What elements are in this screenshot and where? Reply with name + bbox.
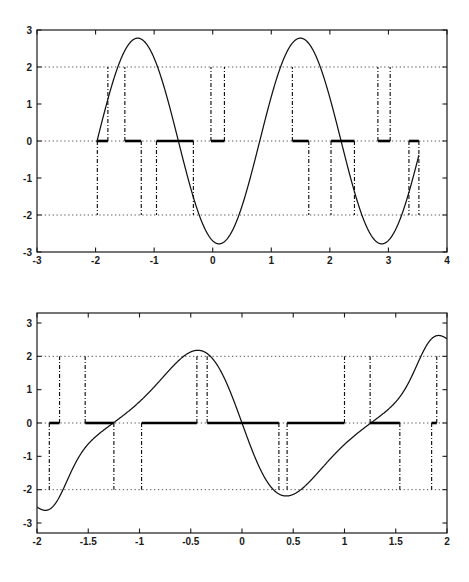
x-tick-label: -1 <box>150 255 159 266</box>
bottom-plot-figure: -2-1.5-1-0.500.511.52-3-2-10123 <box>0 290 469 582</box>
y-tick-label: 2 <box>26 351 32 362</box>
y-tick-label: 2 <box>26 62 32 73</box>
figure-page: -3-2-101234-3-2-10123 -2-1.5-1-0.500.511… <box>0 0 469 582</box>
x-tick-label: -2 <box>33 536 42 547</box>
x-tick-label: -3 <box>33 255 42 266</box>
top-plot-svg: -3-2-101234-3-2-10123 <box>0 0 469 290</box>
x-tick-label: -2 <box>91 255 100 266</box>
bottom-plot-group: -2-1.5-1-0.500.511.52-3-2-10123 <box>23 313 450 547</box>
x-tick-label: 1.5 <box>389 536 403 547</box>
top-plot-figure: -3-2-101234-3-2-10123 <box>0 0 469 290</box>
y-tick-label: -3 <box>23 518 32 529</box>
x-tick-label: 0.5 <box>286 536 300 547</box>
bottom-plot-svg: -2-1.5-1-0.500.511.52-3-2-10123 <box>0 290 469 582</box>
x-tick-label: 2 <box>444 536 450 547</box>
y-tick-label: 1 <box>26 99 32 110</box>
y-tick-label: -1 <box>23 451 32 462</box>
x-tick-label: 1 <box>269 255 275 266</box>
x-tick-label: -1.5 <box>80 536 98 547</box>
x-tick-label: -1 <box>135 536 144 547</box>
y-tick-label: 0 <box>26 136 32 147</box>
signal-curve <box>97 38 419 244</box>
y-tick-label: -3 <box>23 247 32 258</box>
x-tick-label: -0.5 <box>182 536 200 547</box>
x-tick-label: 0 <box>210 255 216 266</box>
y-tick-label: 3 <box>26 318 32 329</box>
y-tick-label: -2 <box>23 210 32 221</box>
y-tick-label: -1 <box>23 173 32 184</box>
y-tick-label: -2 <box>23 484 32 495</box>
y-tick-label: 0 <box>26 418 32 429</box>
x-tick-label: 0 <box>239 536 245 547</box>
top-plot-group: -3-2-101234-3-2-10123 <box>23 25 450 267</box>
x-tick-label: 3 <box>386 255 392 266</box>
plot-area <box>97 38 419 244</box>
y-tick-label: 3 <box>26 25 32 36</box>
plot-area <box>37 335 447 510</box>
x-tick-label: 1 <box>342 536 348 547</box>
y-tick-label: 1 <box>26 384 32 395</box>
x-tick-label: 2 <box>327 255 333 266</box>
x-tick-label: 4 <box>444 255 450 266</box>
